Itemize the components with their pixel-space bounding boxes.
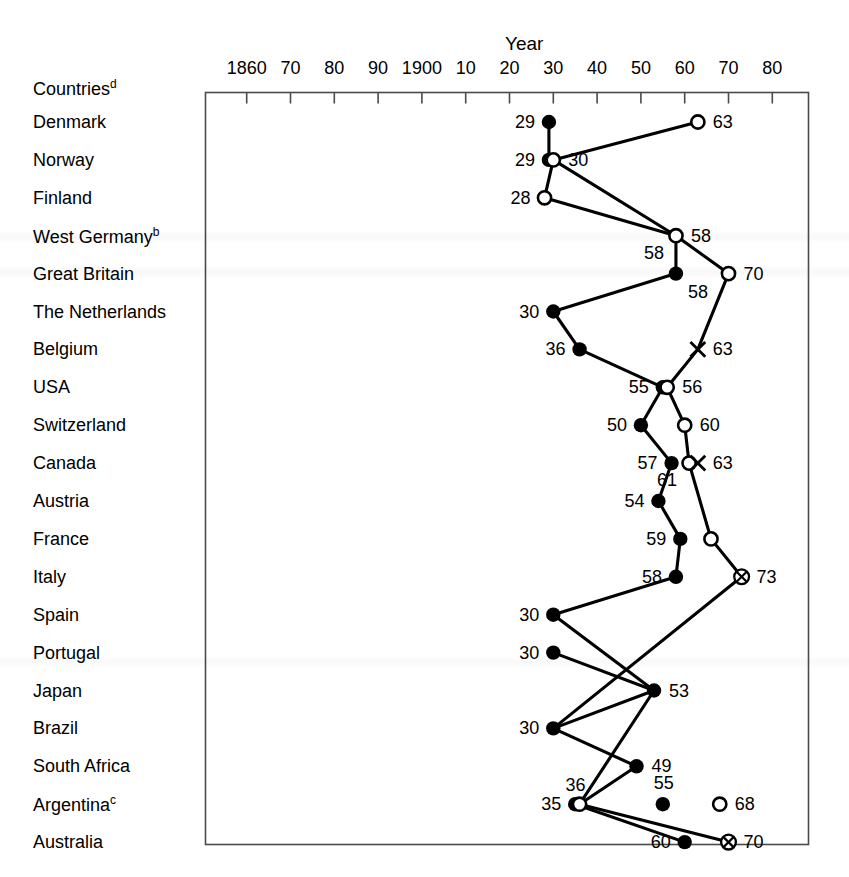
marker-open-circle bbox=[547, 153, 560, 166]
data-point-circle-cross-1970 bbox=[721, 835, 736, 850]
marker-filled-circle bbox=[546, 721, 560, 735]
point-value-label: 57 bbox=[638, 453, 658, 474]
point-value-label: 30 bbox=[519, 604, 539, 625]
marker-open-circle bbox=[691, 115, 704, 128]
data-point-filled-1930 bbox=[546, 608, 560, 622]
data-point-open-1968 bbox=[713, 798, 726, 811]
point-value-label: 30 bbox=[568, 149, 588, 170]
marker-filled-circle bbox=[634, 418, 648, 432]
point-value-label: 50 bbox=[607, 415, 627, 436]
point-value-label: 59 bbox=[646, 528, 666, 549]
point-value-label: 60 bbox=[651, 832, 671, 853]
connector-line bbox=[553, 615, 654, 691]
point-value-label: 70 bbox=[743, 263, 763, 284]
connector-line bbox=[580, 691, 654, 805]
marker-filled-circle bbox=[572, 342, 586, 356]
marker-open-circle bbox=[661, 381, 674, 394]
data-point-open-1930 bbox=[547, 153, 560, 166]
data-point-filled-1958 bbox=[669, 570, 683, 584]
marker-filled-circle bbox=[546, 304, 560, 318]
point-value-label: 58 bbox=[688, 281, 708, 302]
point-value-label: 30 bbox=[519, 642, 539, 663]
connector-line bbox=[580, 766, 637, 804]
point-value-label: 63 bbox=[713, 339, 733, 360]
marker-filled-circle bbox=[669, 570, 683, 584]
point-value-label: 54 bbox=[624, 491, 644, 512]
marker-open-circle bbox=[678, 419, 691, 432]
marker-open-circle bbox=[722, 267, 735, 280]
marker-filled-circle bbox=[629, 759, 643, 773]
connector-line bbox=[553, 274, 676, 312]
marker-filled-circle bbox=[542, 115, 556, 129]
data-point-cross-1963 bbox=[690, 342, 705, 357]
marker-filled-circle bbox=[546, 645, 560, 659]
data-point-open-1970 bbox=[722, 267, 735, 280]
data-point-filled-1949 bbox=[629, 759, 643, 773]
data-point-open-1958 bbox=[669, 229, 682, 242]
marker-filled-circle bbox=[546, 608, 560, 622]
data-point-circle-cross-1973 bbox=[734, 569, 749, 584]
point-value-label: 30 bbox=[519, 301, 539, 322]
data-point-filled-1929 bbox=[542, 115, 556, 129]
point-value-label: 56 bbox=[682, 377, 702, 398]
point-value-label: 55 bbox=[629, 377, 649, 398]
data-point-filled-1930 bbox=[546, 721, 560, 735]
point-value-label: 55 bbox=[654, 773, 674, 794]
data-point-filled-1957 bbox=[664, 456, 678, 470]
marker-filled-circle bbox=[647, 683, 661, 697]
marker-filled-circle bbox=[673, 532, 687, 546]
data-point-open-1956 bbox=[661, 381, 674, 394]
connector-line bbox=[553, 160, 676, 236]
point-value-label: 60 bbox=[700, 415, 720, 436]
data-point-open-1928 bbox=[538, 191, 551, 204]
data-point-open-1960 bbox=[678, 419, 691, 432]
data-point-open-1963 bbox=[691, 115, 704, 128]
data-point-filled-1960 bbox=[678, 835, 692, 849]
marker-open-circle bbox=[669, 229, 682, 242]
connector-line bbox=[553, 577, 741, 729]
data-point-open-1966 bbox=[704, 532, 717, 545]
data-point-filled-1930 bbox=[546, 645, 560, 659]
point-value-label: 68 bbox=[735, 794, 755, 815]
marker-open-circle bbox=[713, 798, 726, 811]
connector-line bbox=[545, 198, 676, 236]
data-point-filled-1953 bbox=[647, 683, 661, 697]
data-point-filled-1955 bbox=[656, 797, 670, 811]
data-point-filled-1954 bbox=[651, 494, 665, 508]
connector-line bbox=[553, 691, 654, 729]
data-point-filled-1936 bbox=[572, 342, 586, 356]
data-point-filled-1930 bbox=[546, 304, 560, 318]
marker-open-circle bbox=[704, 532, 717, 545]
point-value-label: 28 bbox=[511, 187, 531, 208]
marker-filled-circle bbox=[678, 835, 692, 849]
point-value-label: 70 bbox=[743, 832, 763, 853]
point-value-label: 29 bbox=[515, 112, 535, 133]
data-point-filled-1959 bbox=[673, 532, 687, 546]
data-point-open-1936 bbox=[573, 798, 586, 811]
point-value-label: 53 bbox=[669, 680, 689, 701]
point-value-label: 36 bbox=[566, 775, 586, 796]
connector-line bbox=[580, 349, 663, 387]
point-value-label: 58 bbox=[644, 242, 664, 263]
point-value-label: 35 bbox=[541, 794, 561, 815]
point-value-label: 61 bbox=[657, 470, 677, 491]
point-value-label: 73 bbox=[757, 566, 777, 587]
marker-filled-circle bbox=[664, 456, 678, 470]
connector-line bbox=[689, 463, 711, 539]
marker-filled-circle bbox=[669, 266, 683, 280]
marker-open-circle bbox=[538, 191, 551, 204]
data-point-filled-1950 bbox=[634, 418, 648, 432]
marker-open-circle bbox=[573, 798, 586, 811]
point-value-label: 36 bbox=[546, 339, 566, 360]
chart-figure: Year 186070809019001020304050607080 Coun… bbox=[0, 0, 849, 877]
data-point-filled-1958 bbox=[669, 266, 683, 280]
point-value-label: 29 bbox=[515, 149, 535, 170]
marker-filled-circle bbox=[656, 797, 670, 811]
point-value-label: 63 bbox=[713, 112, 733, 133]
point-value-label: 63 bbox=[713, 453, 733, 474]
point-value-label: 58 bbox=[691, 225, 711, 246]
point-value-label: 30 bbox=[519, 718, 539, 739]
point-value-label: 58 bbox=[642, 566, 662, 587]
marker-filled-circle bbox=[651, 494, 665, 508]
